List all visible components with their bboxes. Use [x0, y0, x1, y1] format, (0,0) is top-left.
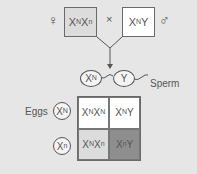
- female-symbol: ♀: [48, 12, 59, 28]
- sperm-gamete-xn: XN: [80, 70, 102, 87]
- male-symbol: ♂: [159, 12, 170, 28]
- eggs-label: Eggs: [25, 106, 48, 117]
- punnett-cell: XNXN: [78, 97, 109, 129]
- male-genotype-box: XNY: [122, 7, 155, 37]
- punnett-cell: XNY: [109, 97, 140, 129]
- female-genotype-box: XNXn: [64, 7, 97, 37]
- egg-gamete-xN: XN: [53, 102, 71, 120]
- sperm-gamete-y: Y: [113, 70, 135, 87]
- punnett-square: XNXN XNY XNXn XnY: [77, 96, 141, 161]
- punnett-cell: XnY: [109, 129, 140, 161]
- sperm-tail: [133, 75, 148, 80]
- cross-symbol: ×: [106, 13, 112, 25]
- sperm-label: Sperm: [150, 78, 179, 89]
- punnett-cell: XNXn: [78, 129, 109, 161]
- egg-gamete-xn: Xn: [53, 137, 71, 155]
